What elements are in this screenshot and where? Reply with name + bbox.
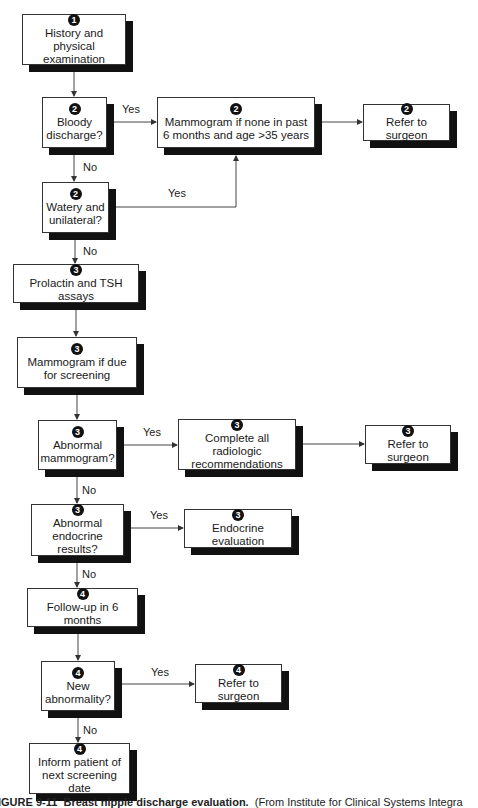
node-mammogram-none-6mo: 2 Mammogram if none in past 6 months and… — [157, 97, 315, 148]
node-watery-unilateral: 2 Watery and unilateral? — [42, 182, 109, 233]
node-abnormal-mammogram: 3 Abnormal mammogram? — [38, 420, 117, 470]
node-text: Abnormal endocrine results? — [35, 517, 120, 556]
node-text: Follow-up in 6 months — [31, 601, 134, 627]
step-number-badge: 3 — [72, 426, 84, 438]
step-number-badge: 3 — [231, 419, 243, 431]
node-followup-6-months: 4 Follow-up in 6 months — [27, 588, 138, 627]
step-number-badge: 3 — [72, 504, 84, 516]
node-text: Watery and unilateral? — [46, 201, 105, 227]
node-text: Prolactin and TSH assays — [17, 277, 135, 303]
node-bloody-discharge: 2 Bloody discharge? — [42, 97, 107, 148]
node-text: Refer to surgeon — [367, 116, 446, 142]
step-number-badge: 3 — [70, 264, 82, 276]
step-number-badge: 2 — [69, 103, 81, 115]
node-endocrine-evaluation: 3 Endocrine evaluation — [184, 509, 292, 548]
edge-label-no: No — [83, 245, 97, 257]
step-number-badge: 2 — [230, 103, 242, 115]
step-number-badge: 3 — [402, 425, 414, 437]
step-number-badge: 2 — [401, 103, 413, 115]
node-text: Inform patient of next screening date — [33, 756, 126, 795]
step-number-badge: 4 — [77, 588, 89, 600]
node-refer-surgeon-2: 2 Refer to surgeon — [363, 104, 450, 141]
node-text: Mammogram if none in past 6 months and a… — [161, 116, 311, 142]
figure-caption: IGURE 9-11 Breast nipple discharge evalu… — [0, 796, 463, 808]
edge-label-no: No — [82, 484, 96, 496]
node-refer-surgeon-3: 3 Refer to surgeon — [365, 425, 451, 464]
edge-label-yes: Yes — [143, 426, 161, 438]
step-number-badge: 2 — [70, 188, 82, 200]
node-text: New abnormality? — [45, 680, 111, 706]
figure-source: (From Institute for Clinical Systems Int… — [255, 796, 463, 808]
edge-label-yes: Yes — [122, 103, 140, 115]
node-inform-patient: 4 Inform patient of next screening date — [29, 743, 130, 794]
node-text: Abnormal mammogram? — [40, 439, 114, 465]
node-text: Refer to surgeon — [199, 677, 278, 703]
edge-label-no: No — [83, 161, 97, 173]
node-text: Complete all radiologic recommendations — [182, 432, 292, 471]
edge-label-no: No — [82, 568, 96, 580]
edge-label-no: No — [83, 724, 97, 736]
node-refer-surgeon-4: 4 Refer to surgeon — [195, 664, 282, 703]
step-number-badge: 4 — [72, 667, 84, 679]
node-radiologic-recommendations: 3 Complete all radiologic recommendation… — [178, 419, 296, 470]
node-text: Mammogram if due for screening — [21, 356, 133, 382]
node-abnormal-endocrine: 3 Abnormal endocrine results? — [31, 504, 124, 556]
node-mammogram-due: 3 Mammogram if due for screening — [17, 337, 137, 388]
step-number-badge: 4 — [74, 743, 86, 755]
step-number-badge: 4 — [233, 664, 245, 676]
node-text: Refer to surgeon — [369, 438, 447, 464]
figure-title: Breast nipple discharge evaluation. — [63, 796, 248, 808]
node-history-physical: 1 History and physical examination — [22, 14, 126, 65]
node-new-abnormality: 4 New abnormality? — [41, 661, 115, 711]
edge-label-yes: Yes — [151, 666, 169, 678]
step-number-badge: 3 — [232, 509, 244, 521]
node-prolactin-tsh: 3 Prolactin and TSH assays — [13, 264, 139, 303]
edge-label-yes: Yes — [150, 509, 168, 521]
figure-number: IGURE 9-11 — [0, 796, 57, 808]
node-text: Endocrine evaluation — [188, 522, 288, 548]
node-text: Bloody discharge? — [46, 116, 103, 142]
step-number-badge: 1 — [68, 14, 80, 26]
node-text: History and physical examination — [26, 27, 122, 66]
edge-label-yes: Yes — [168, 187, 186, 199]
step-number-badge: 3 — [71, 343, 83, 355]
